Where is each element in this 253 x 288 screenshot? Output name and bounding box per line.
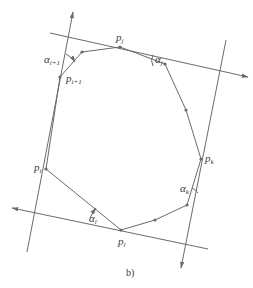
- rotating-calipers-diagram: [0, 0, 253, 288]
- label-sub: i+1: [72, 78, 82, 86]
- label-sub: j: [161, 59, 163, 67]
- label-sub: i+1: [50, 59, 60, 67]
- label-sub: l: [124, 241, 126, 249]
- label-p-k: pk: [205, 153, 214, 166]
- label-sub: k: [186, 188, 189, 196]
- vertex-dot: [185, 203, 188, 206]
- bottom-support-line: [12, 208, 208, 249]
- label-alpha-l: αl: [89, 213, 97, 226]
- label-p-l: pl: [118, 236, 125, 249]
- vertex-dot: [58, 75, 61, 78]
- label-p-i1: pi+1: [66, 73, 82, 86]
- angle-arcs: [66, 54, 198, 218]
- label-p-i: pi: [34, 162, 41, 175]
- vertex-dot: [80, 50, 83, 53]
- label-alpha-i1: αi+1: [44, 54, 60, 67]
- vertex-dot: [119, 228, 122, 231]
- label-sub: l: [95, 218, 97, 226]
- angle-arc-alpha-j: [152, 55, 154, 66]
- right-support-line: [181, 40, 226, 268]
- vertex-dot: [199, 157, 202, 160]
- figure-caption: b): [126, 267, 134, 278]
- label-alpha-k: αk: [180, 183, 189, 196]
- vertex-dot: [163, 62, 166, 65]
- vertex-dot: [184, 108, 187, 111]
- vertex-dot: [153, 218, 156, 221]
- label-alpha-j: αj: [155, 54, 163, 67]
- label-sub: i: [40, 167, 42, 175]
- vertex-dot: [118, 45, 121, 48]
- label-sub: k: [211, 158, 214, 166]
- label-p-j: pj: [116, 32, 123, 45]
- label-sub: j: [122, 37, 124, 45]
- vertex-dot: [44, 167, 47, 170]
- angle-arc-alpha-i1: [66, 54, 75, 62]
